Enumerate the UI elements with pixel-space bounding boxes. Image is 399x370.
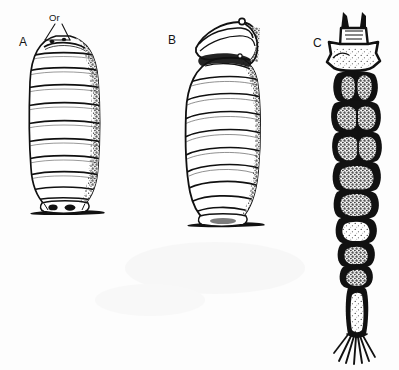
specimen-c-segment bbox=[338, 241, 375, 268]
figure-container: A B C Or bbox=[0, 0, 399, 370]
specimen-c-segment bbox=[340, 264, 373, 289]
specimen-c-head-capsule bbox=[327, 12, 380, 71]
scan-ghost-artifact bbox=[95, 242, 305, 316]
specimen-c-segment bbox=[333, 160, 381, 192]
specimen-c-drawing bbox=[327, 12, 382, 364]
specimen-c-segment bbox=[333, 71, 378, 104]
specimen-a-drawing bbox=[27, 34, 105, 215]
specimen-a-posterior-plate bbox=[40, 201, 89, 213]
specimen-c-segment bbox=[334, 189, 379, 220]
panel-label-a: A bbox=[19, 36, 27, 48]
specimen-b-drawing bbox=[185, 18, 265, 227]
specimen-c-segment bbox=[332, 130, 382, 163]
panel-label-c: C bbox=[313, 37, 322, 49]
panel-label-b: B bbox=[168, 34, 176, 46]
specimen-c-caudal-segment bbox=[346, 287, 369, 337]
specimen-c-caudal-bristles bbox=[334, 332, 375, 364]
specimen-c-segment bbox=[331, 100, 381, 133]
specimen-c-segment bbox=[336, 216, 377, 245]
insect-figure-illustration bbox=[0, 0, 399, 370]
specimen-b-posterior-plate bbox=[198, 214, 247, 226]
annotation-label-or: Or bbox=[49, 13, 60, 23]
